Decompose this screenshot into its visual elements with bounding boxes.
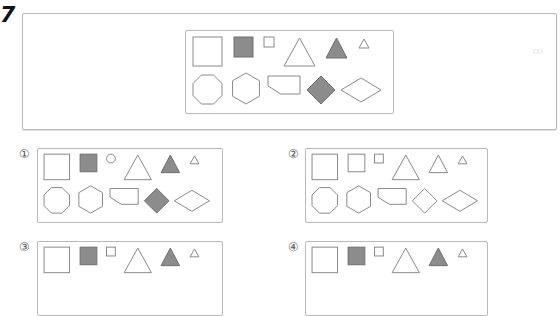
option-1-label[interactable]: ① — [19, 148, 30, 160]
triangle-shape — [392, 248, 419, 273]
gray-square-shape — [348, 247, 365, 265]
triangle-shape — [190, 249, 199, 257]
triangle-shape — [392, 155, 419, 180]
square-shape — [193, 37, 222, 66]
gray-triangle-shape — [326, 38, 347, 58]
gray-triangle-shape — [161, 155, 179, 173]
corner-mark: ꝏ — [533, 45, 543, 56]
pentagon-shape — [110, 188, 138, 204]
pentagon-shape — [378, 188, 406, 204]
triangle-shape — [458, 156, 467, 164]
triangle-shape — [124, 155, 151, 180]
triangle-shape — [124, 248, 151, 273]
octagon-shape — [44, 188, 70, 214]
hexagon-shape — [233, 73, 260, 104]
triangle-shape — [359, 39, 369, 48]
square-shape — [264, 37, 274, 47]
option-3-label[interactable]: ③ — [19, 241, 30, 253]
gray-triangle-shape — [429, 248, 447, 266]
square-shape — [312, 247, 338, 273]
hexagon-shape — [347, 186, 371, 213]
square-shape — [375, 247, 384, 256]
rhombus-wide-shape — [341, 78, 381, 102]
pentagon-shape — [268, 76, 300, 94]
triangle-shape — [429, 155, 447, 173]
gray-square-shape — [80, 154, 97, 172]
square-shape — [44, 247, 70, 273]
hexagon-shape — [79, 186, 103, 213]
triangle-shape — [458, 249, 467, 257]
gray-diamond-shape — [144, 188, 169, 213]
square-shape — [348, 154, 365, 172]
option-1-shapes — [37, 148, 223, 223]
option-2-shapes — [305, 148, 488, 223]
gray-square-shape — [234, 37, 253, 57]
octagon-shape — [312, 188, 338, 214]
gray-square-shape — [80, 247, 97, 265]
triangle-shape — [284, 38, 315, 66]
square-shape — [312, 154, 338, 180]
option-4-shapes — [305, 241, 488, 316]
circle-shape — [107, 154, 116, 163]
stimulus-shapes — [185, 30, 394, 114]
square-shape — [375, 154, 384, 163]
diamond-shape — [412, 188, 437, 213]
rhombus-wide-shape — [174, 190, 209, 211]
triangle-shape — [190, 156, 199, 164]
square-shape — [107, 247, 116, 256]
gray-triangle-shape — [161, 248, 179, 266]
rhombus-wide-shape — [442, 190, 477, 211]
gray-diamond-shape — [307, 76, 335, 104]
option-4-label[interactable]: ④ — [288, 241, 299, 253]
option-3-shapes — [37, 241, 223, 316]
option-2-label[interactable]: ② — [288, 148, 299, 160]
octagon-shape — [193, 75, 222, 104]
square-shape — [44, 154, 70, 180]
question-number: 7 — [0, 4, 15, 26]
